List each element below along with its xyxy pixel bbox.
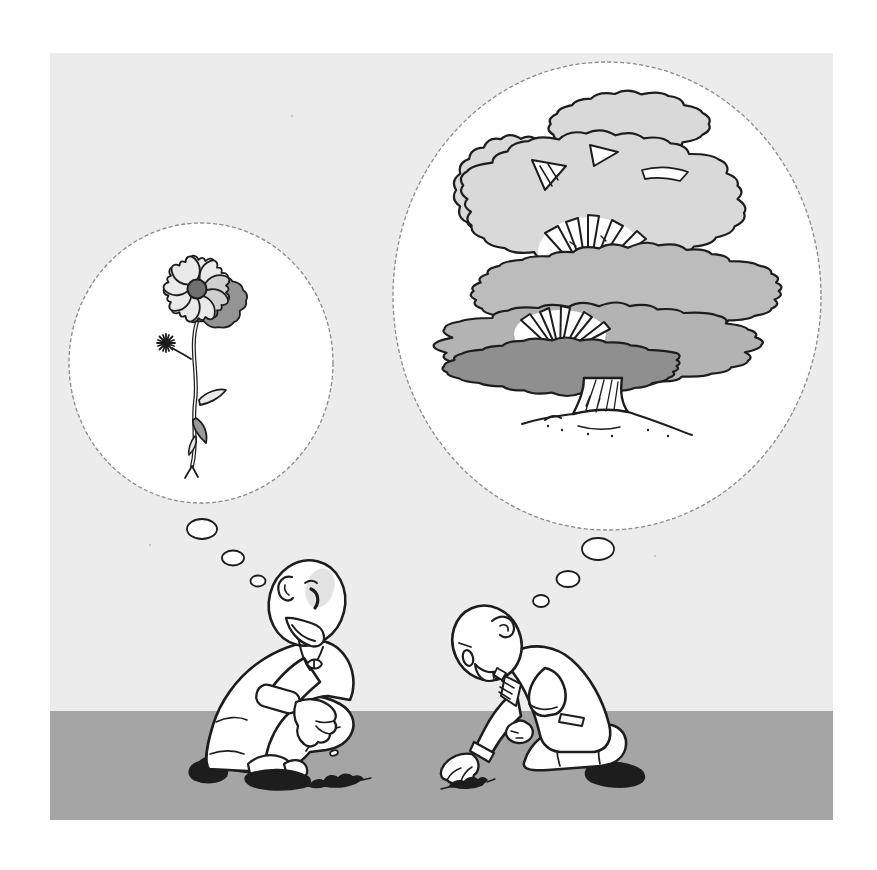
base-dot [611, 435, 613, 437]
base-dot [547, 425, 549, 427]
base-dot [561, 429, 563, 431]
bud-core [163, 340, 169, 346]
speckle-dot [149, 544, 151, 546]
thought-trail-bubble [222, 551, 244, 566]
canopy-gap [642, 167, 688, 181]
figure-right-fist [506, 721, 533, 743]
flower-center [188, 280, 207, 299]
thought-trail-bubble [251, 576, 266, 587]
thought-trail-bubble [557, 571, 580, 587]
figure-left-bow [307, 660, 322, 669]
speckle-dot [291, 115, 294, 118]
figure-left-near-shoe-sole [246, 770, 310, 789]
illustration-canvas [0, 0, 877, 870]
thought-trail-bubble [187, 519, 217, 539]
speckle-dot [654, 555, 656, 557]
thought-trail-bubble [582, 538, 614, 560]
ground [50, 711, 833, 820]
base-dot [667, 435, 669, 437]
thought-trail-bubble [533, 595, 549, 607]
base-dot [587, 433, 589, 435]
scene-svg [0, 0, 877, 870]
base-dot [647, 429, 649, 431]
flower-bud-burst [157, 334, 175, 352]
